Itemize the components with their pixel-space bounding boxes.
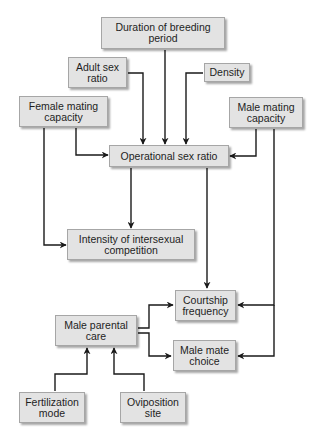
node-duration-of-breeding-period: Duration of breeding period	[101, 17, 225, 49]
node-label: Oviposition site	[124, 397, 182, 419]
node-label: Male mate choice	[177, 345, 232, 367]
node-female-mating-capacity: Female mating capacity	[19, 96, 108, 127]
node-label: Operational sex ratio	[121, 151, 218, 162]
node-fertilization-mode: Fertilization mode	[19, 392, 85, 423]
edge-density-to-osr	[186, 73, 203, 144]
edge-fertilization-to-parental	[55, 348, 87, 391]
node-label: Intensity of intersexual competition	[71, 234, 191, 256]
node-male-mating-capacity: Male mating capacity	[229, 97, 303, 128]
edge-parental-to-choice	[138, 333, 171, 356]
node-courtship-frequency: Courtship frequency	[175, 290, 236, 321]
node-label: Male parental care	[59, 320, 133, 342]
edge-parental-to-courtship	[138, 305, 173, 328]
edge-adult-sex-ratio-to-osr	[128, 73, 143, 144]
node-label: Courtship frequency	[179, 295, 232, 317]
node-density: Density	[204, 63, 250, 82]
node-label: Adult sex ratio	[72, 62, 123, 84]
node-label: Male mating capacity	[233, 102, 299, 124]
node-male-mate-choice: Male mate choice	[173, 340, 236, 371]
edge-oviposition-to-parental	[114, 348, 144, 391]
node-label: Fertilization mode	[23, 397, 81, 419]
node-male-parental-care: Male parental care	[55, 315, 137, 346]
edge-female-to-osr	[76, 128, 108, 155]
connectors-layer	[0, 0, 320, 442]
edge-male-mating-to-choice	[238, 305, 274, 356]
node-operational-sex-ratio: Operational sex ratio	[109, 145, 229, 167]
node-oviposition-site: Oviposition site	[120, 392, 186, 423]
node-intensity-of-intersexual-competition: Intensity of intersexual competition	[67, 229, 195, 260]
node-label: Density	[209, 67, 244, 78]
edge-male-mating-to-osr	[230, 129, 256, 156]
node-label: Duration of breeding period	[105, 22, 221, 44]
node-adult-sex-ratio: Adult sex ratio	[68, 57, 127, 88]
edge-female-to-intensity	[44, 128, 66, 245]
node-label: Female mating capacity	[23, 101, 104, 123]
flowchart-diagram: Duration of breeding period Adult sex ra…	[0, 0, 320, 442]
